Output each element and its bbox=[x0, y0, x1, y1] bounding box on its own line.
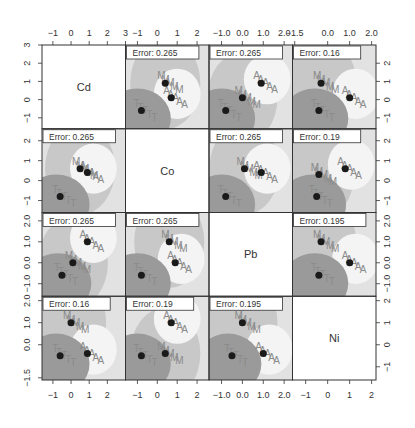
class-centroid bbox=[318, 80, 325, 87]
class-centroid bbox=[222, 193, 229, 200]
top-axis-tick-label: −1 bbox=[132, 28, 142, 38]
class-centroid bbox=[162, 350, 169, 357]
class-label: A bbox=[266, 171, 273, 182]
class-centroid bbox=[172, 259, 179, 266]
class-label: M bbox=[324, 173, 332, 184]
left-axis-tick-label: −1 bbox=[22, 195, 32, 205]
class-label: A bbox=[268, 352, 275, 363]
right-axis-tick-label: 0.0 bbox=[382, 256, 392, 269]
class-label: A bbox=[266, 81, 273, 92]
class-label: A bbox=[92, 240, 99, 251]
left-axis-tick-label: 2 bbox=[22, 138, 32, 143]
right-axis-tick-label: 1 bbox=[382, 158, 392, 163]
class-label: A bbox=[355, 261, 362, 272]
class-label: A bbox=[350, 167, 357, 178]
top-axis-tick-label: 3 bbox=[123, 28, 128, 38]
right-axis-tick-label: 0 bbox=[382, 342, 392, 347]
variable-label-pb: Pb bbox=[244, 248, 257, 260]
class-centroid bbox=[346, 94, 353, 101]
error-label: Error: 0.16 bbox=[300, 48, 340, 58]
variable-label-co: Co bbox=[160, 165, 174, 177]
class-centroid bbox=[84, 169, 91, 176]
error-label: Error: 0.265 bbox=[216, 48, 261, 58]
class-centroid bbox=[228, 352, 235, 359]
top-axis-tick-label: 1.0 bbox=[257, 28, 270, 38]
bottom-axis-tick-label: −1 bbox=[132, 390, 142, 400]
error-label: Error: 0.16 bbox=[49, 299, 89, 309]
class-label: T bbox=[324, 273, 330, 284]
right-axis-tick-label: −1 bbox=[382, 113, 392, 123]
bottom-axis-tick-label: 0 bbox=[69, 390, 74, 400]
class-label: A bbox=[92, 352, 99, 363]
class-label: A bbox=[176, 321, 183, 332]
bottom-axis-tick-label: 0 bbox=[155, 390, 160, 400]
variable-label-cd: Cd bbox=[77, 81, 91, 93]
right-axis-tick-label: 1 bbox=[382, 320, 392, 325]
error-label: Error: 0.265 bbox=[133, 48, 178, 58]
class-label: M bbox=[174, 240, 182, 251]
top-axis-tick-label: −1.0 bbox=[213, 28, 231, 38]
error-label: Error: 0.195 bbox=[216, 299, 261, 309]
error-label: Error: 0.265 bbox=[216, 132, 261, 142]
right-axis-tick-label: −1 bbox=[382, 362, 392, 372]
right-axis-tick-label: 1 bbox=[382, 79, 392, 84]
left-axis-tick-label: 2 bbox=[22, 61, 32, 66]
bottom-axis-tick-label: 2.0 bbox=[278, 390, 291, 400]
right-axis-tick-label: 1.0 bbox=[382, 236, 392, 249]
left-axis-tick-label: 1.0 bbox=[22, 236, 32, 249]
left-axis-tick-label: 0 bbox=[22, 97, 32, 102]
class-centroid bbox=[258, 169, 265, 176]
class-label: T bbox=[65, 195, 71, 206]
class-centroid bbox=[168, 94, 175, 101]
class-centroid bbox=[58, 272, 65, 279]
class-centroid bbox=[138, 272, 145, 279]
left-axis-tick-label: 0.0 bbox=[22, 338, 32, 351]
bottom-axis-tick-label: 0 bbox=[325, 390, 330, 400]
class-centroid bbox=[84, 238, 91, 245]
class-centroid bbox=[239, 319, 246, 326]
bottom-axis-tick-label: 1.0 bbox=[257, 390, 270, 400]
error-label: Error: 0.19 bbox=[133, 299, 173, 309]
error-label: Error: 0.195 bbox=[300, 216, 345, 226]
class-centroid bbox=[222, 107, 229, 114]
left-axis-tick-label: −1 bbox=[22, 113, 32, 123]
error-label: Error: 0.265 bbox=[49, 216, 94, 226]
class-label: T bbox=[231, 195, 237, 206]
top-axis-tick-label: −1.5 bbox=[286, 28, 304, 38]
bottom-axis-tick-label: 1 bbox=[347, 390, 352, 400]
class-label: A bbox=[92, 171, 99, 182]
class-centroid bbox=[315, 107, 322, 114]
bottom-axis-tick-label: 2 bbox=[105, 390, 110, 400]
bottom-axis-tick-label: −1 bbox=[301, 390, 311, 400]
class-label: T bbox=[67, 273, 73, 284]
class-centroid bbox=[168, 319, 175, 326]
class-label: A bbox=[355, 96, 362, 107]
class-label: A bbox=[176, 96, 183, 107]
right-axis-tick-label: 2 bbox=[382, 61, 392, 66]
class-centroid bbox=[138, 107, 145, 114]
class-label: T bbox=[231, 109, 237, 120]
bottom-axis-tick-label: 0.0 bbox=[236, 390, 249, 400]
left-axis-tick-label: −1.5 bbox=[22, 369, 32, 387]
top-axis-tick-label: 0 bbox=[155, 28, 160, 38]
right-axis-tick-label: 2.0 bbox=[382, 215, 392, 228]
class-label: T bbox=[65, 354, 71, 365]
top-axis-tick-label: 1 bbox=[87, 28, 92, 38]
left-axis-tick-label: 0.0 bbox=[22, 256, 32, 269]
top-axis-tick-label: 0.0 bbox=[321, 28, 334, 38]
class-centroid bbox=[346, 259, 353, 266]
bottom-axis-tick-label: 1 bbox=[175, 390, 180, 400]
left-axis-tick-label: 1 bbox=[22, 158, 32, 163]
error-label: Error: 0.265 bbox=[133, 216, 178, 226]
class-label: M bbox=[326, 81, 334, 92]
class-centroid bbox=[69, 259, 76, 266]
right-axis-tick-label: 2 bbox=[382, 138, 392, 143]
error-label: Error: 0.265 bbox=[49, 132, 94, 142]
left-axis-tick-label: 2.0 bbox=[22, 215, 32, 228]
class-centroid bbox=[313, 193, 320, 200]
top-axis-tick-label: 1.0 bbox=[343, 28, 356, 38]
right-axis-tick-label: −1 bbox=[382, 195, 392, 205]
right-axis-tick-label: 2 bbox=[382, 298, 392, 303]
class-centroid bbox=[258, 80, 265, 87]
variable-label-ni: Ni bbox=[329, 332, 339, 344]
